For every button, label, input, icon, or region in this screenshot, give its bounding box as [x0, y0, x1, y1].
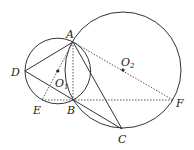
label-f: F: [175, 97, 184, 110]
geometry-diagram: A B C D E F O1 O2: [0, 0, 194, 150]
label-d: D: [10, 66, 20, 79]
label-o2: O2: [121, 56, 135, 70]
label-o1: O1: [55, 77, 69, 91]
label-a: A: [65, 28, 74, 41]
label-c: C: [118, 133, 127, 146]
center-o1-dot: [56, 69, 59, 72]
label-b: B: [66, 104, 75, 117]
label-e: E: [32, 104, 41, 117]
segment-ac: [73, 42, 122, 129]
segment-ad: [25, 42, 73, 71]
